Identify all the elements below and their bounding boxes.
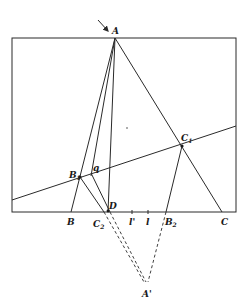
dashed-B2-Aprime xyxy=(148,212,166,282)
label-B1: B1 xyxy=(68,170,81,181)
label-q: q xyxy=(93,163,99,173)
frame-rectangle xyxy=(12,38,236,212)
label-l: l xyxy=(146,217,150,227)
segment-C1-B2 xyxy=(166,146,182,212)
center-dot xyxy=(126,127,128,129)
label-l-prime: l' xyxy=(129,217,135,227)
label-C1: C1 xyxy=(181,133,192,144)
pointer-arrow-icon xyxy=(98,20,108,31)
label-C: C xyxy=(221,217,229,227)
point-C1 xyxy=(180,144,183,147)
label-A: A xyxy=(111,26,119,36)
dashed-D-Aprime xyxy=(110,212,146,282)
dashed-C2-Aprime xyxy=(104,212,144,282)
segment-B1-C2 xyxy=(80,177,104,212)
label-D: D xyxy=(108,201,117,211)
geometry-diagram: A B C D B1 C1 C2 B2 A' q l' l xyxy=(0,0,247,307)
label-A-prime: A' xyxy=(141,289,152,299)
side-AB xyxy=(71,38,115,212)
label-B: B xyxy=(66,217,75,227)
label-C2: C2 xyxy=(93,219,104,230)
label-B2: B2 xyxy=(164,217,177,228)
transversal-line xyxy=(12,126,236,200)
altitude-AD xyxy=(108,38,115,212)
line-A-q xyxy=(91,38,115,176)
side-AC xyxy=(115,38,222,212)
